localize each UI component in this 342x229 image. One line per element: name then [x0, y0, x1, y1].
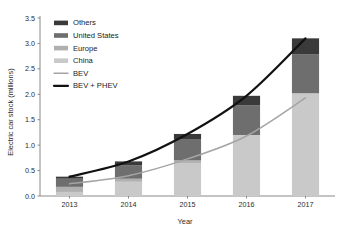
stacked-bar [292, 38, 319, 196]
electric-car-stock-chart: 0.00.51.01.52.02.53.03.5 201320142015201… [0, 0, 342, 229]
bar-segment-china [174, 163, 201, 196]
bar-segment-united-states [292, 54, 319, 93]
x-tick-label: 2014 [121, 200, 137, 209]
y-tick-label: 3.5 [25, 14, 35, 23]
y-tick-label: 2.5 [25, 64, 35, 73]
y-tick-label: 1.5 [25, 115, 35, 124]
y-tick-label: 0.0 [25, 192, 35, 201]
x-tick-label: 2015 [180, 200, 196, 209]
y-tick-label: 0.5 [25, 166, 35, 175]
legend-label: United States [73, 31, 119, 40]
stacked-bar [115, 161, 142, 196]
stacked-bar [233, 96, 260, 196]
legend-swatch-bar [54, 46, 68, 51]
bar-segment-europe [56, 187, 83, 192]
legend-swatch-bar [54, 58, 68, 63]
bar-segment-china [115, 182, 142, 196]
y-axis-title: Electric car stock (millions) [6, 68, 15, 155]
bar-segment-europe [115, 179, 142, 182]
chart-background [0, 0, 342, 229]
chart-canvas: 0.00.51.01.52.02.53.03.5 201320142015201… [0, 0, 342, 229]
legend-label: Europe [73, 44, 98, 53]
x-tick-label: 2017 [298, 200, 314, 209]
x-axis-title: Year [178, 217, 193, 226]
legend-label: China [73, 56, 94, 65]
x-tick-label: 2016 [239, 200, 255, 209]
bar-segment-china [233, 135, 260, 196]
y-tick-label: 1.0 [25, 141, 35, 150]
bar-segment-china [56, 192, 83, 196]
legend-label: BEV + PHEV [73, 81, 118, 90]
y-tick-label: 2.0 [25, 90, 35, 99]
stacked-bar [56, 177, 83, 196]
legend-label: Others [73, 18, 96, 27]
legend-label: BEV [73, 69, 89, 78]
y-tick-label: 3.0 [25, 39, 35, 48]
bar-segment-china [292, 93, 319, 196]
stacked-bar [174, 134, 201, 196]
bar-segment-united-states [174, 139, 201, 160]
legend-swatch-bar [54, 21, 68, 26]
x-tick-label: 2013 [62, 200, 78, 209]
legend-swatch-bar [54, 33, 68, 38]
bar-segment-others [292, 38, 319, 54]
